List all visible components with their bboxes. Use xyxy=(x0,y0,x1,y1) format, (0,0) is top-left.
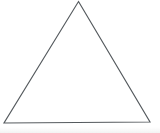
triangle-drawing xyxy=(0,0,160,133)
canvas-background xyxy=(0,0,160,133)
figure-canvas xyxy=(0,0,160,133)
